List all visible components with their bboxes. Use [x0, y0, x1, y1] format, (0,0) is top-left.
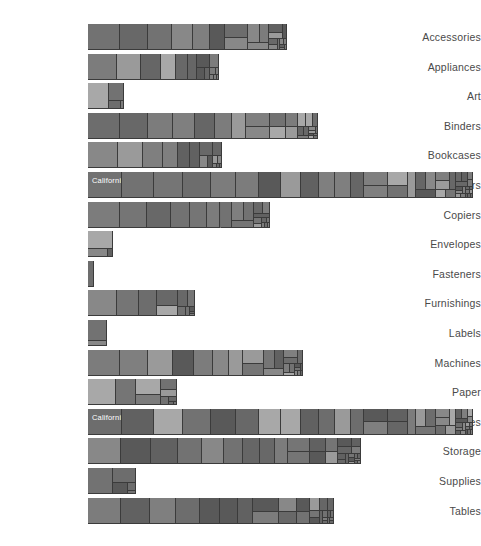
treemap-cell[interactable] — [436, 426, 447, 434]
category-treemap-bar[interactable] — [88, 83, 124, 109]
treemap-cell[interactable] — [243, 350, 264, 364]
treemap-cell[interactable] — [136, 395, 161, 406]
treemap-cell[interactable] — [120, 350, 148, 376]
treemap-cell[interactable] — [88, 341, 107, 346]
treemap-cell[interactable] — [183, 409, 210, 435]
treemap-cell[interactable] — [246, 127, 269, 139]
treemap-cell[interactable] — [236, 172, 259, 198]
treemap-cell[interactable] — [161, 379, 177, 390]
treemap-cell[interactable] — [269, 24, 282, 33]
treemap-cell[interactable] — [259, 172, 280, 198]
treemap-cell[interactable] — [109, 83, 124, 101]
treemap-cell[interactable] — [248, 43, 269, 50]
treemap-cell[interactable] — [121, 101, 124, 109]
treemap-cell[interactable] — [122, 172, 154, 198]
treemap-cell[interactable] — [236, 409, 259, 435]
treemap-cell[interactable] — [207, 202, 221, 228]
treemap-cell[interactable] — [254, 224, 262, 228]
treemap-cell[interactable] — [297, 512, 310, 524]
treemap-cell[interactable] — [468, 417, 473, 424]
treemap-cell[interactable] — [88, 320, 107, 341]
treemap-cell[interactable] — [213, 142, 222, 156]
treemap-cell[interactable] — [190, 202, 207, 228]
treemap-cell[interactable] — [88, 350, 120, 376]
treemap-cell[interactable] — [314, 136, 318, 138]
treemap-cell[interactable] — [248, 24, 260, 43]
treemap-cell[interactable] — [118, 142, 143, 168]
treemap-cell[interactable] — [298, 113, 306, 127]
treemap-cell[interactable] — [178, 307, 185, 317]
treemap-cell[interactable] — [128, 491, 136, 494]
treemap-cell[interactable] — [232, 113, 247, 139]
category-treemap-bar[interactable] — [88, 350, 303, 376]
treemap-cell[interactable] — [193, 24, 211, 50]
treemap-cell[interactable] — [176, 54, 188, 80]
treemap-cell[interactable] — [190, 142, 199, 168]
treemap-cell[interactable] — [88, 290, 117, 316]
treemap-cell[interactable] — [338, 447, 352, 454]
treemap-cell[interactable] — [326, 438, 338, 452]
treemap-cell[interactable] — [154, 409, 183, 435]
treemap-cell[interactable] — [148, 24, 172, 50]
treemap-cell[interactable] — [388, 422, 407, 434]
treemap-cell[interactable] — [220, 164, 222, 168]
treemap-cell[interactable] — [285, 45, 287, 50]
category-treemap-bar[interactable] — [88, 261, 94, 287]
treemap-cell[interactable] — [120, 24, 148, 50]
treemap-cell[interactable] — [416, 409, 426, 427]
treemap-cell[interactable] — [471, 194, 473, 198]
treemap-cell[interactable] — [183, 172, 210, 198]
treemap-cell[interactable] — [330, 521, 334, 524]
treemap-cell[interactable] — [388, 172, 407, 186]
treemap-cell[interactable] — [352, 447, 361, 454]
treemap-cell[interactable] — [306, 113, 313, 127]
treemap-cell[interactable] — [171, 202, 191, 228]
treemap-cell[interactable] — [310, 518, 320, 524]
treemap-cell[interactable] — [163, 142, 179, 168]
category-treemap-bar[interactable] — [88, 202, 270, 228]
treemap-cell[interactable] — [286, 113, 298, 127]
treemap-cell[interactable] — [178, 290, 188, 306]
category-treemap-bar[interactable] — [88, 379, 177, 405]
treemap-cell[interactable] — [88, 498, 121, 524]
treemap-cell[interactable] — [264, 350, 275, 369]
treemap-cell[interactable] — [136, 379, 161, 394]
treemap-cell[interactable] — [88, 468, 113, 494]
treemap-cell[interactable] — [446, 426, 455, 434]
treemap-cell[interactable] — [121, 498, 150, 524]
treemap-cell[interactable] — [468, 180, 473, 187]
treemap-cell[interactable] — [328, 498, 334, 511]
treemap-cell[interactable] — [88, 54, 117, 80]
treemap-cell[interactable] — [259, 409, 280, 435]
treemap-cell[interactable] — [288, 438, 310, 452]
treemap-cell[interactable] — [88, 249, 108, 257]
treemap-cell[interactable] — [253, 512, 278, 524]
treemap-cell[interactable] — [335, 409, 350, 435]
treemap-cell[interactable] — [88, 83, 109, 109]
treemap-cell[interactable]: California — [88, 409, 122, 435]
treemap-cell[interactable] — [211, 172, 236, 198]
treemap-cell[interactable] — [215, 113, 232, 139]
treemap-cell[interactable] — [286, 127, 298, 139]
treemap-cell[interactable] — [224, 438, 243, 464]
treemap-cell[interactable] — [88, 438, 121, 464]
treemap-cell[interactable] — [263, 202, 270, 214]
treemap-cell[interactable] — [232, 202, 244, 221]
treemap-cell[interactable] — [446, 190, 455, 198]
category-treemap-bar[interactable] — [88, 498, 334, 524]
treemap-cell[interactable] — [202, 438, 224, 464]
treemap-cell[interactable] — [264, 369, 284, 376]
treemap-cell[interactable] — [229, 350, 243, 376]
category-treemap-bar[interactable] — [88, 24, 287, 50]
treemap-cell[interactable] — [408, 172, 416, 198]
treemap-cell[interactable] — [254, 202, 263, 214]
treemap-cell[interactable] — [320, 498, 328, 511]
treemap-cell[interactable] — [200, 156, 208, 168]
category-treemap-bar[interactable] — [88, 290, 195, 316]
category-treemap-bar[interactable] — [88, 54, 219, 80]
treemap-cell[interactable] — [416, 172, 426, 190]
treemap-cell[interactable] — [288, 452, 310, 464]
category-treemap-bar[interactable]: California — [88, 409, 473, 435]
treemap-cell[interactable] — [364, 422, 388, 434]
treemap-cell[interactable] — [281, 172, 301, 198]
